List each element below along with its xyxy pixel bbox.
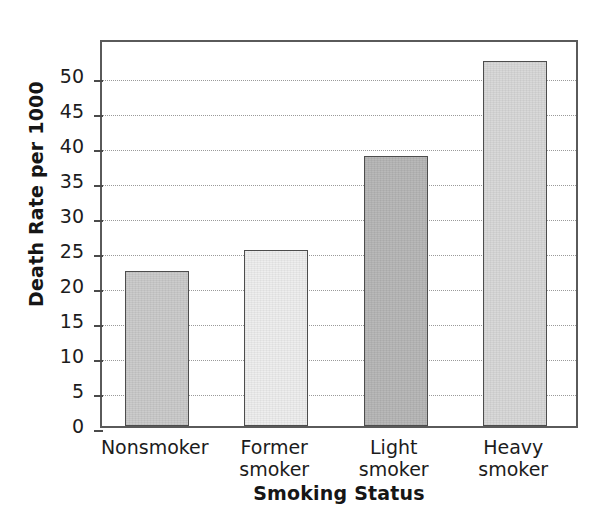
y-axis-tickmark bbox=[94, 325, 103, 327]
y-axis-tickmark bbox=[94, 115, 103, 117]
y-axis-tickmark bbox=[94, 290, 103, 292]
y-axis-tick-label: 40 bbox=[24, 135, 84, 157]
bar bbox=[483, 61, 547, 426]
y-axis-tickmark bbox=[94, 395, 103, 397]
x-axis-title: Smoking Status bbox=[100, 482, 578, 504]
y-axis-tick-label: 20 bbox=[24, 275, 84, 297]
category-label-line: smoker bbox=[443, 458, 583, 480]
y-axis-tick-label: 0 bbox=[24, 415, 84, 437]
y-axis-tickmark bbox=[94, 360, 103, 362]
bar bbox=[364, 156, 428, 426]
y-axis-tick-label: 35 bbox=[24, 170, 84, 192]
y-axis-tickmark bbox=[94, 150, 103, 152]
plot-area bbox=[100, 40, 578, 428]
y-axis-tick-label: 5 bbox=[24, 380, 84, 402]
y-axis-tick-label: 15 bbox=[24, 310, 84, 332]
y-axis-tick-label: 25 bbox=[24, 240, 84, 262]
category-label-line: Heavy bbox=[443, 436, 583, 458]
y-axis-tickmark bbox=[94, 430, 103, 432]
y-axis-tick-label: 50 bbox=[24, 65, 84, 87]
bar-chart-figure: Death Rate per 1000 05101520253035404550… bbox=[0, 0, 610, 522]
y-axis-tickmark bbox=[94, 220, 103, 222]
y-axis-tickmark bbox=[94, 185, 103, 187]
bar bbox=[125, 271, 189, 426]
x-axis-category-label: Heavysmoker bbox=[443, 436, 583, 480]
y-axis-tick-label: 45 bbox=[24, 100, 84, 122]
bar bbox=[244, 250, 308, 426]
y-axis-tickmark bbox=[94, 80, 103, 82]
y-axis-tick-label: 30 bbox=[24, 205, 84, 227]
y-axis-tick-label: 10 bbox=[24, 345, 84, 367]
y-axis-tickmark bbox=[94, 255, 103, 257]
